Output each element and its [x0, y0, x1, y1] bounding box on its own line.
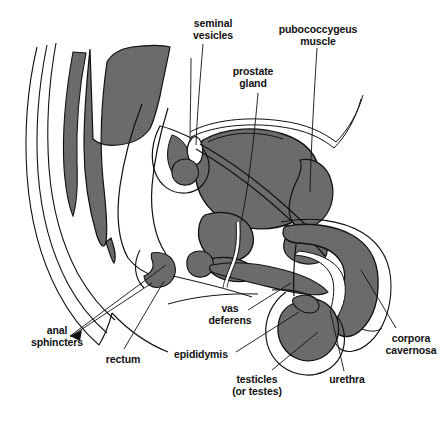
label-prostate-gland: prostate gland — [220, 66, 286, 89]
label-epididymis: epididymis — [168, 349, 234, 361]
cowper-gland — [187, 251, 214, 277]
abdominal-wall-line-2 — [334, 99, 361, 148]
perineum-contour — [112, 313, 168, 352]
anatomy-illustration — [0, 0, 447, 427]
seminal-vesicle-dark-lobe — [172, 159, 199, 185]
anatomy-diagram: seminal vesicles pubococcygeus muscle pr… — [0, 0, 447, 427]
label-testicles: testicles (or testes) — [226, 374, 288, 397]
buttock-fold — [99, 313, 112, 345]
label-anal-sphincters: anal sphincters — [23, 325, 91, 348]
urethra-bulb-curve — [225, 288, 272, 292]
label-corpora-cavernosa: corpora cavernosa — [380, 333, 442, 356]
vertebra-strip-left — [63, 52, 86, 216]
anal-sphincter-group — [135, 250, 175, 288]
sacrum-vertebrae-group — [63, 46, 170, 264]
sacrum-body — [84, 46, 170, 247]
label-vas-deferens: vas deferens — [202, 303, 258, 326]
leader-seminal-vesicles-2 — [190, 58, 191, 142]
label-rectum: rectum — [98, 354, 148, 366]
label-pubococcygeus-muscle: pubococcygeus muscle — [271, 24, 365, 47]
label-urethra: urethra — [322, 374, 372, 386]
coccyx-tip — [106, 238, 115, 263]
abdominal-wall-line — [336, 95, 363, 142]
leader-seminal-vesicles — [196, 44, 203, 145]
label-seminal-vesicles: seminal vesicles — [177, 18, 249, 41]
